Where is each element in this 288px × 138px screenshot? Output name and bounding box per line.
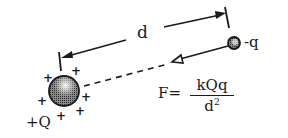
source-charge-sphere — [49, 76, 79, 106]
formula-lhs: F= — [158, 86, 181, 101]
distance-arrow-right — [164, 11, 226, 27]
plus-sign: + — [43, 72, 53, 84]
distance-arrow-left — [61, 40, 126, 58]
test-charge-sphere — [228, 37, 240, 49]
test-charge-label: -q — [244, 35, 259, 50]
source-charge-label: +Q — [26, 115, 51, 130]
right-dimension-tick — [225, 7, 229, 28]
formula-fraction: kQq d2 — [190, 76, 234, 115]
distance-label: d — [137, 24, 148, 41]
formula-numerator: kQq — [190, 76, 234, 96]
formula-exponent: 2 — [214, 97, 220, 107]
coulomb-diagram: + + + + + + +Q -q d F= kQq d2 — [0, 0, 288, 138]
plus-sign: + — [81, 91, 91, 103]
left-dimension-tick — [59, 52, 61, 71]
plus-sign: + — [75, 105, 85, 117]
plus-sign: + — [71, 65, 81, 77]
plus-sign: + — [37, 95, 47, 107]
dashed-line-of-centers — [84, 64, 168, 86]
formula-denominator: d2 — [190, 96, 234, 115]
force-arrow — [172, 46, 228, 63]
plus-sign: + — [56, 110, 66, 122]
formula-denominator-base: d — [204, 97, 214, 115]
